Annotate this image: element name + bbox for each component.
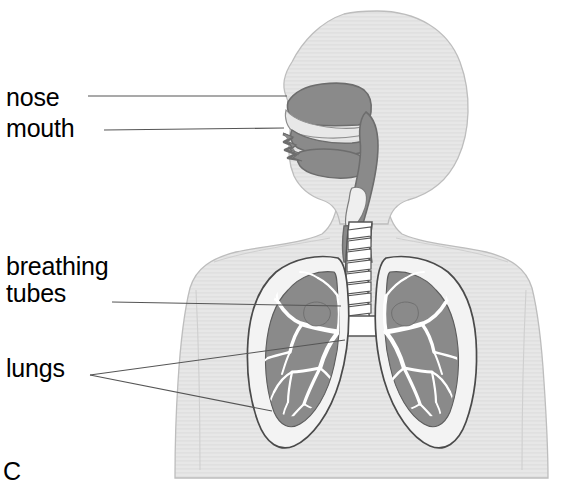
label-partial-bottom: C	[3, 458, 21, 482]
label-mouth: mouth	[6, 115, 74, 142]
label-lungs: lungs	[6, 355, 65, 382]
label-nose: nose	[6, 84, 59, 111]
leader-line-mouth	[104, 128, 284, 130]
lung-right-hilum-pocket	[392, 302, 419, 326]
label-breathing-tubes: breathing tubes	[6, 253, 108, 307]
label-breathing-line1: breathing	[6, 253, 108, 280]
label-breathing-line2: tubes	[6, 280, 108, 307]
diagram-page: nose mouth breathing tubes lungs C	[0, 0, 573, 482]
respiratory-system-diagram	[0, 0, 573, 482]
